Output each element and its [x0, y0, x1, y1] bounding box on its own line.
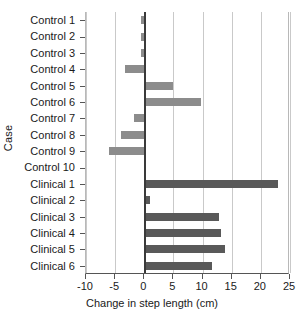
x-tick-label-5: 5	[157, 280, 187, 292]
bar-row	[86, 241, 288, 257]
y-tick-label-control-3: Control 3	[30, 45, 75, 61]
gridline-25	[290, 12, 291, 273]
y-tick-label-clinical-3: Clinical 3	[30, 209, 75, 225]
y-tick-label-control-4: Control 4	[30, 61, 75, 77]
x-tick-mark	[231, 274, 232, 279]
bar-control-4	[125, 65, 144, 73]
x-axis-title: Change in step length (cm)	[0, 297, 304, 309]
bar-clinical-6	[144, 262, 212, 270]
bar-row	[86, 258, 288, 274]
x-tick-label-15: 15	[216, 280, 246, 292]
bar-control-8	[121, 131, 144, 139]
bar-row	[86, 28, 288, 44]
y-tick-label-control-10: Control 10	[24, 159, 75, 175]
bar-row	[86, 61, 288, 77]
x-tick-mark	[260, 274, 261, 279]
y-tick-label-clinical-1: Clinical 1	[30, 176, 75, 192]
y-tick-label-control-7: Control 7	[30, 110, 75, 126]
y-tick-label-control-9: Control 9	[30, 143, 75, 159]
bar-row	[86, 127, 288, 143]
x-tick-label--10: -10	[70, 280, 100, 292]
y-axis-tick-labels: Control 1Control 2Control 3Control 4Cont…	[0, 12, 85, 274]
x-tick-label-10: 10	[187, 280, 217, 292]
x-tick-label-0: 0	[128, 280, 158, 292]
x-tick-label-20: 20	[245, 280, 275, 292]
y-tick-label-control-2: Control 2	[30, 28, 75, 44]
x-tick-mark	[85, 274, 86, 279]
y-tick-label-control-1: Control 1	[30, 12, 75, 28]
bar-row	[86, 209, 288, 225]
x-tick-label-25: 25	[274, 280, 304, 292]
bar-row	[86, 192, 288, 208]
y-tick-label-clinical-5: Clinical 5	[30, 241, 75, 257]
zero-line	[144, 12, 146, 273]
bar-clinical-3	[144, 213, 219, 221]
x-tick-mark	[289, 274, 290, 279]
y-tick-label-clinical-2: Clinical 2	[30, 192, 75, 208]
bar-clinical-1	[144, 180, 278, 188]
bar-row	[86, 45, 288, 61]
x-tick-mark	[202, 274, 203, 279]
bar-control-5	[144, 82, 173, 90]
bar-row	[86, 176, 288, 192]
x-tick-mark	[172, 274, 173, 279]
bar-row	[86, 159, 288, 175]
bar-row	[86, 225, 288, 241]
bar-row	[86, 78, 288, 94]
x-axis-tick-labels: -10-50510152025	[85, 280, 289, 294]
y-tick-label-control-5: Control 5	[30, 78, 75, 94]
bar-row	[86, 110, 288, 126]
step-length-bar-chart: Case Control 1Control 2Control 3Control …	[0, 0, 304, 318]
plot-area	[85, 12, 289, 274]
y-tick-label-control-8: Control 8	[30, 127, 75, 143]
y-tick-label-control-6: Control 6	[30, 94, 75, 110]
y-tick-label-clinical-6: Clinical 6	[30, 258, 75, 274]
x-tick-mark	[143, 274, 144, 279]
bar-control-7	[134, 114, 144, 122]
bar-clinical-5	[144, 245, 224, 253]
x-tick-label--5: -5	[99, 280, 129, 292]
bar-row	[86, 143, 288, 159]
bar-control-9	[109, 147, 144, 155]
x-tick-mark	[114, 274, 115, 279]
bar-row	[86, 12, 288, 28]
bar-clinical-4	[144, 229, 220, 237]
bar-row	[86, 94, 288, 110]
bar-series	[86, 12, 288, 273]
y-tick-label-clinical-4: Clinical 4	[30, 225, 75, 241]
bar-control-6	[144, 98, 201, 106]
